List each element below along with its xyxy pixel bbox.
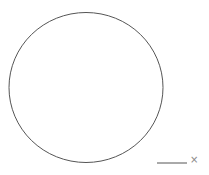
- circle-series: [9, 13, 163, 163]
- legend-marker-x-icon: ×: [190, 154, 198, 165]
- chart: ×: [0, 0, 209, 175]
